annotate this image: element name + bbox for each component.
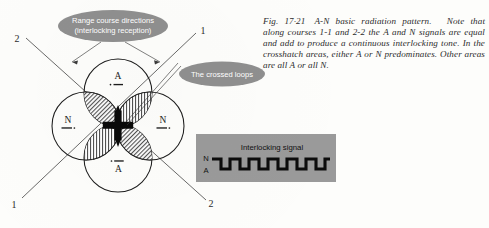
course-label-top-left: 2 — [15, 33, 20, 44]
morse-dash-left — [62, 127, 73, 128]
morse-dot-bottom — [111, 160, 113, 162]
morse-dot-left — [74, 127, 76, 129]
lobe-label-top: A — [110, 71, 123, 85]
interlocking-signal-box: Interlocking signal N A — [196, 134, 336, 182]
leader-range-left — [72, 42, 101, 62]
callout-range-course-directions[interactable]: Range course directions (interlocking re… — [58, 10, 168, 42]
morse-dot-right — [169, 127, 171, 129]
callout-range-line1: Range course directions — [72, 16, 154, 25]
figure-page: A A N N 2 1 1 2 — [0, 0, 489, 228]
figure-caption: Fig. 17·21A-N basic radiation pattern. N… — [263, 16, 485, 71]
course-label-top-right: 1 — [201, 25, 206, 36]
lobe-label-right-letter: N — [160, 115, 167, 125]
callout-range-line2: (interlocking reception) — [75, 26, 152, 35]
lobe-label-bottom-letter: A — [115, 164, 122, 174]
course-label-bottom-right: 2 — [209, 198, 214, 209]
lobe-label-left: N — [62, 115, 76, 129]
lobe-label-left-letter: N — [65, 115, 72, 125]
morse-dash-top — [114, 84, 124, 85]
leader-crossed-loops-a — [126, 63, 178, 122]
morse-dash-bottom — [114, 160, 124, 161]
callout-crossed-loops[interactable]: The crossed loops — [179, 62, 265, 87]
course-label-bottom-left: 1 — [12, 199, 17, 210]
leader-range-right — [125, 42, 160, 62]
morse-dash-right — [157, 127, 168, 128]
signal-axis-high-label: N — [203, 154, 208, 163]
lobe-label-top-letter: A — [115, 71, 122, 81]
figure-number: Fig. 17·21 — [263, 16, 305, 26]
morse-dot-top — [110, 84, 112, 86]
signal-box-title: Interlocking signal — [241, 143, 304, 152]
figure-title: A-N basic radiation pattern. — [314, 16, 431, 26]
lobe-label-right: N — [157, 115, 171, 129]
lobe-label-bottom: A — [111, 160, 124, 174]
callout-crossed-loops-label: The crossed loops — [191, 70, 253, 79]
